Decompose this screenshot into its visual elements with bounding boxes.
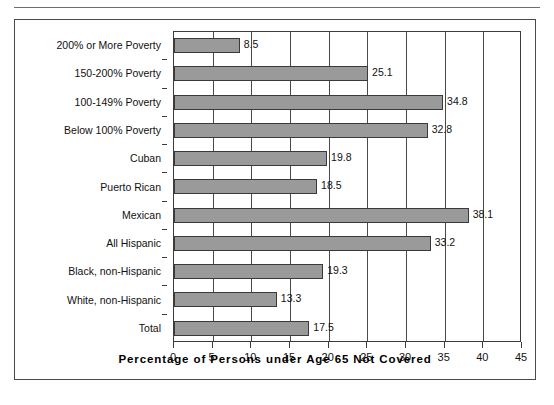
category-label: Below 100% Poverty xyxy=(64,124,161,136)
bar[interactable] xyxy=(174,292,277,307)
bar-row: 34.8 xyxy=(174,89,520,117)
bar[interactable] xyxy=(174,208,469,223)
plot-area: 8.525.134.832.819.818.538.133.219.313.31… xyxy=(173,31,521,342)
bar[interactable] xyxy=(174,321,309,336)
bar-value-label: 25.1 xyxy=(372,65,392,80)
bar-row: 19.3 xyxy=(174,258,520,286)
category-tick xyxy=(162,88,167,89)
x-axis-tick xyxy=(444,342,445,348)
bar-value-label: 18.5 xyxy=(321,178,341,193)
category-axis: 200% or More Poverty150-200% Poverty100-… xyxy=(15,31,167,342)
bar-value-label: 17.5 xyxy=(313,320,333,335)
category-label: Mexican xyxy=(122,209,161,221)
category-tick xyxy=(162,285,167,286)
category-label: Black, non-Hispanic xyxy=(68,265,161,277)
bar-value-label: 8.5 xyxy=(244,37,259,52)
bar[interactable] xyxy=(174,66,368,81)
x-axis-tick xyxy=(173,342,174,348)
bar-value-label: 19.8 xyxy=(331,150,351,165)
bar-value-label: 33.2 xyxy=(435,235,455,250)
bar-series: 8.525.134.832.819.818.538.133.219.313.31… xyxy=(174,32,520,341)
bar-row: 19.8 xyxy=(174,145,520,173)
x-axis-title: Percentage of Persons under Age 65 Not C… xyxy=(15,353,535,365)
category-tick xyxy=(162,144,167,145)
category-label: 100-149% Poverty xyxy=(75,96,161,108)
x-axis-tick xyxy=(328,342,329,348)
bar[interactable] xyxy=(174,123,428,138)
category-label: Cuban xyxy=(130,152,161,164)
bar-row: 18.5 xyxy=(174,173,520,201)
category-label: Total xyxy=(139,322,161,334)
category-tick xyxy=(162,229,167,230)
bar-value-label: 32.8 xyxy=(432,122,452,137)
bar-row: 13.3 xyxy=(174,286,520,314)
chart-figure: 200% or More Poverty150-200% Poverty100-… xyxy=(14,19,536,380)
x-axis-tick xyxy=(482,342,483,348)
bar-row: 17.5 xyxy=(174,315,520,343)
bar-value-label: 13.3 xyxy=(281,291,301,306)
bar[interactable] xyxy=(174,179,317,194)
x-axis-tick xyxy=(521,342,522,348)
x-axis-tick xyxy=(289,342,290,348)
x-axis-tick xyxy=(212,342,213,348)
category-tick xyxy=(162,257,167,258)
category-label: White, non-Hispanic xyxy=(67,294,161,306)
category-tick xyxy=(162,314,167,315)
x-axis-tick xyxy=(250,342,251,348)
bar-value-label: 34.8 xyxy=(447,94,467,109)
category-label: 200% or More Poverty xyxy=(57,39,161,51)
bar-row: 38.1 xyxy=(174,202,520,230)
x-axis-tick xyxy=(366,342,367,348)
category-tick xyxy=(162,59,167,60)
bar[interactable] xyxy=(174,236,431,251)
bar-row: 32.8 xyxy=(174,117,520,145)
bar[interactable] xyxy=(174,151,327,166)
category-label: All Hispanic xyxy=(106,237,161,249)
category-tick xyxy=(162,172,167,173)
bar[interactable] xyxy=(174,38,240,53)
category-tick xyxy=(162,116,167,117)
bar-row: 33.2 xyxy=(174,230,520,258)
bar[interactable] xyxy=(174,264,323,279)
bar-value-label: 38.1 xyxy=(473,207,493,222)
category-label: 150-200% Poverty xyxy=(75,67,161,79)
category-label: Puerto Rican xyxy=(100,181,161,193)
bar[interactable] xyxy=(174,95,443,110)
x-axis-tick xyxy=(405,342,406,348)
bar-row: 8.5 xyxy=(174,32,520,60)
category-tick xyxy=(162,201,167,202)
bar-value-label: 19.3 xyxy=(327,263,347,278)
bar-row: 25.1 xyxy=(174,60,520,88)
top-divider-rule xyxy=(14,7,540,8)
